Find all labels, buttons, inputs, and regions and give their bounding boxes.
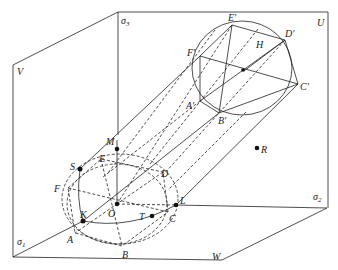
point-H-center (241, 68, 245, 72)
label-E-prime: E′ (227, 12, 237, 23)
point-R (255, 146, 260, 151)
label-S: S (70, 161, 75, 172)
point-O (115, 202, 120, 207)
label-sigma2: σ2 (313, 191, 322, 204)
label-T: T (139, 211, 146, 222)
hexagon-edges (200, 25, 298, 113)
label-sigma1: σ1 (17, 236, 25, 249)
point-M (115, 147, 120, 152)
label-O: O (108, 208, 115, 219)
lower-solid-curves (79, 140, 176, 223)
label-C-prime: C′ (300, 81, 310, 92)
label-M: M (105, 136, 115, 147)
label-V: V (17, 66, 25, 77)
label-D: D (160, 168, 169, 179)
label-K: K (79, 209, 88, 220)
label-B-prime: B′ (218, 115, 227, 126)
label-B: B (122, 249, 128, 260)
label-D-prime: D′ (284, 28, 295, 39)
point-T (150, 214, 155, 219)
label-F: F (53, 183, 61, 194)
label-R: R (260, 144, 267, 155)
label-E: E (98, 153, 105, 164)
cylinder-solid-lines (80, 40, 298, 221)
label-F-prime: F′ (186, 47, 196, 58)
point-L (174, 203, 179, 208)
label-A-prime: A′ (185, 100, 195, 111)
label-H: H (255, 39, 264, 50)
diagram-canvas: V U W σ3 σ1 σ2 E′ D′ H F′ C′ A′ B′ M R E… (0, 0, 338, 270)
labels: V U W σ3 σ1 σ2 E′ D′ H F′ C′ A′ B′ M R E… (17, 12, 325, 262)
label-C: C (169, 213, 176, 224)
label-A: A (66, 234, 74, 245)
label-U: U (317, 17, 325, 28)
label-L: L (179, 195, 186, 206)
stress-space-diagram: V U W σ3 σ1 σ2 E′ D′ H F′ C′ A′ B′ M R E… (0, 0, 338, 270)
label-sigma3: σ3 (121, 15, 130, 28)
point-S (78, 167, 83, 172)
